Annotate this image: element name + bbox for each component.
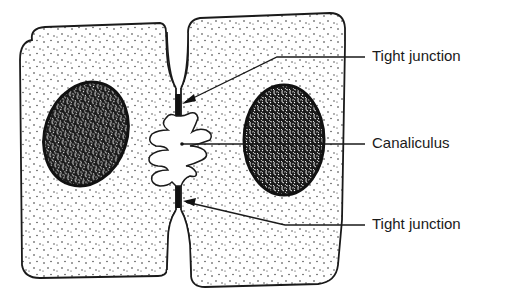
label-canaliculus: Canaliculus: [372, 135, 450, 150]
right-nucleus: [244, 85, 324, 195]
tight-junction-top: [176, 94, 181, 116]
diagram-canvas: Tight junction Canaliculus Tight junctio…: [0, 0, 507, 308]
tight-junction-bottom: [176, 186, 181, 208]
label-tight-junction-top: Tight junction: [372, 48, 461, 63]
label-tight-junction-bottom: Tight junction: [372, 216, 461, 231]
